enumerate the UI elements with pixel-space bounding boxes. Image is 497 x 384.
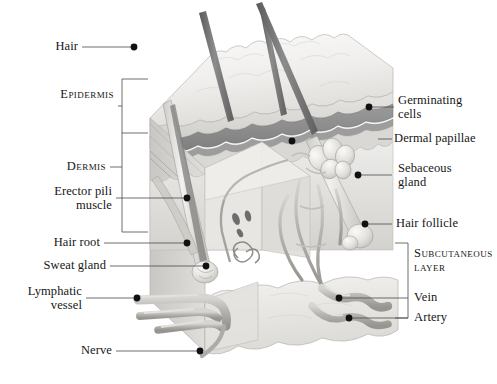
dot-hair-root <box>184 240 191 247</box>
dot-artery <box>346 315 353 322</box>
label-sebaceous-line2: gland <box>398 176 478 190</box>
label-dermal-papillae: Dermal papillae <box>394 132 486 146</box>
dot-nerve <box>197 348 204 355</box>
label-erector-pili-line2: muscle <box>0 199 112 213</box>
label-sebaceous-line1: Sebaceous <box>398 162 478 176</box>
label-nerve: Nerve <box>0 344 112 358</box>
label-vein: Vein <box>414 291 474 305</box>
dot-sweat-gland <box>203 263 210 270</box>
label-sweat-gland: Sweat gland <box>0 259 106 273</box>
label-artery: Artery <box>414 311 478 325</box>
dot-sebaceous <box>355 172 362 179</box>
label-subcutaneous-line2: layer <box>414 261 497 275</box>
dot-dermal-papillae <box>289 138 296 145</box>
bracket-dermis <box>110 133 148 232</box>
dot-germinating <box>366 104 373 111</box>
dot-vein <box>336 295 343 302</box>
label-dermis: Dermis <box>0 160 106 174</box>
bracket-epidermis <box>118 79 148 133</box>
label-hair: Hair <box>0 40 78 54</box>
label-germinating-line2: cells <box>398 108 478 122</box>
label-hair-root: Hair root <box>0 236 100 250</box>
dot-lymphatic <box>134 295 141 302</box>
dot-hair-follicle <box>362 221 369 228</box>
dot-hair <box>131 44 138 51</box>
label-subcutaneous-line1: Subcutaneous <box>414 247 497 261</box>
protruding-vessels-left <box>138 295 227 330</box>
dot-erector-pili <box>184 195 191 202</box>
label-lymphatic-line1: Lymphatic <box>0 285 82 299</box>
label-lymphatic-line2: vessel <box>0 299 82 313</box>
label-germinating-line1: Germinating <box>398 94 486 108</box>
label-epidermis: Epidermis <box>0 88 114 102</box>
label-hair-follicle: Hair follicle <box>396 217 482 231</box>
label-erector-pili-line1: Erector pili <box>0 185 112 199</box>
